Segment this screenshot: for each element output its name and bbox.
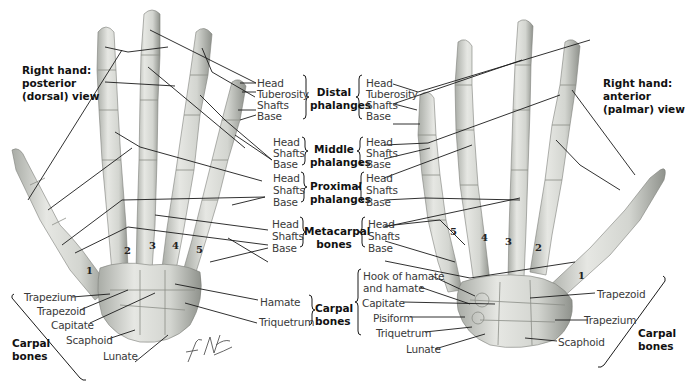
right-trapezoid-label: Trapezoid (597, 288, 645, 300)
right-trapezium-label: Trapezium (584, 314, 636, 326)
group-name-line: bones (12, 350, 50, 363)
group-name-line: bones (638, 340, 676, 353)
right-pisiform-label: Pisiform (373, 312, 413, 324)
right-proximal-shafts: Shafts (366, 184, 398, 196)
right-carpal-bones-group: Carpal bones (638, 327, 676, 352)
left-triquetrum-label: Triquetrum (259, 316, 314, 328)
group-name-line: Distal (310, 86, 358, 99)
left-metacarpal-base: Base (272, 242, 297, 254)
title-line: Right hand: (603, 77, 685, 90)
group-name-line: phalanges (310, 193, 358, 206)
left-view-title: Right hand: posterior (dorsal) view (22, 64, 99, 103)
right-lunate-label: Lunate (406, 343, 441, 355)
left-metacarpal-number-4: 4 (172, 240, 179, 251)
right-triquetrum-label: Triquetrum (376, 327, 431, 339)
left-metacarpal-number-2: 2 (124, 245, 131, 256)
group-name-line: Carpal (12, 337, 50, 350)
group-name-line: Carpal (315, 302, 353, 315)
left-metacarpal-number-1: 1 (86, 265, 93, 276)
left-metacarpal-shafts: Shafts (272, 230, 304, 242)
right-proximal-base: Base (366, 196, 391, 208)
left-capitate-label: Capitate (51, 319, 94, 331)
right-metacarpal-number-5: 5 (450, 226, 457, 237)
right-proximal-head: Head (366, 172, 393, 184)
right-middle-base: Base (366, 158, 391, 170)
right-metacarpal-head: Head (368, 218, 395, 230)
group-name-line: Carpal (638, 327, 676, 340)
group-name-line: phalanges (310, 99, 358, 112)
title-line: (dorsal) view (22, 90, 99, 103)
right-metacarpal-shafts: Shafts (368, 230, 400, 242)
group-proximal-phalanges: Proximal phalanges (310, 180, 358, 205)
left-proximal-head: Head (273, 172, 300, 184)
left-carpal-bones-group: Carpal bones (12, 337, 50, 362)
group-middle-phalanges: Middle phalanges (310, 143, 358, 168)
left-proximal-base: Base (273, 196, 298, 208)
right-and-hamate-label: and hamate (363, 282, 424, 294)
group-name-line: Proximal (310, 180, 358, 193)
right-hook-of-hamate-label: Hook of hamate (363, 270, 444, 282)
right-view-title: Right hand: anterior (palmar) view (603, 77, 685, 116)
right-metacarpal-number-1: 1 (578, 270, 585, 281)
right-metacarpal-number-2: 2 (535, 242, 542, 253)
right-metacarpal-number-4: 4 (481, 232, 488, 243)
left-hamate-label: Hamate (260, 296, 300, 308)
group-metacarpal-bones: Metacarpal bones (304, 225, 364, 250)
right-capitate-label: Capitate (362, 297, 405, 309)
title-line: Right hand: (22, 64, 99, 77)
left-proximal-shafts: Shafts (273, 184, 305, 196)
netter-signature (186, 335, 232, 362)
title-line: anterior (603, 90, 685, 103)
right-metacarpal-base: Base (368, 242, 393, 254)
title-line: (palmar) view (603, 103, 685, 116)
left-trapezoid-label: Trapezoid (37, 305, 85, 317)
right-distal-base: Base (366, 110, 391, 122)
group-name-line: Middle (310, 143, 358, 156)
right-metacarpal-number-3: 3 (505, 236, 512, 247)
left-lunate-label: Lunate (103, 350, 138, 362)
left-metacarpal-number-5: 5 (196, 244, 203, 255)
left-metacarpal-number-3: 3 (149, 240, 156, 251)
left-distal-base: Base (257, 110, 282, 122)
group-name-line: bones (304, 238, 364, 251)
right-scaphoid-label: Scaphoid (558, 336, 605, 348)
group-name-line: phalanges (310, 156, 358, 169)
group-name-line: Metacarpal (304, 225, 364, 238)
left-metacarpal-head: Head (272, 218, 299, 230)
group-name-line: bones (315, 315, 353, 328)
left-trapezium-label: Trapezium (24, 291, 76, 303)
left-middle-base: Base (273, 158, 298, 170)
center-carpal-bones-group: Carpal bones (315, 302, 353, 327)
group-distal-phalanges: Distal phalanges (310, 86, 358, 111)
title-line: posterior (22, 77, 99, 90)
left-scaphoid-label: Scaphoid (66, 334, 113, 346)
